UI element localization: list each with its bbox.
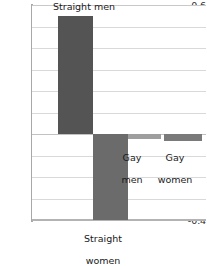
bar-label-straight-men: Straight men [44, 1, 124, 12]
bar-label-straight-women-line2: women [86, 255, 121, 266]
bar-label-gay-women-line2: women [158, 174, 193, 185]
bar-label-gay-women: Gay women [151, 141, 199, 185]
bar-label-gay-men: Gay men [113, 141, 151, 185]
bar-gay-women [164, 134, 202, 141]
bar-label-straight-women-line1: Straight [84, 233, 122, 244]
plot-area [32, 5, 206, 220]
bar-label-gay-men-line2: men [121, 174, 142, 185]
bar-gay-men [128, 134, 161, 139]
bar-straight-men [58, 16, 93, 134]
bar-label-straight-women: Straight women [73, 222, 133, 266]
bar-label-gay-women-line1: Gay [166, 152, 185, 163]
bar-label-gay-men-line1: Gay [123, 152, 142, 163]
